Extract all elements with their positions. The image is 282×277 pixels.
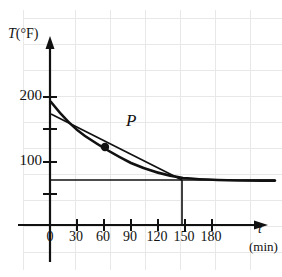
x-tick-label-30: 30 [61, 230, 91, 244]
x-tick-label-60: 60 [88, 230, 118, 244]
x-axis-label: t [258, 222, 262, 235]
y-axis-arrowhead [46, 36, 55, 49]
cooling-curve-figure: T(°F) t (min) P 200 100 0 30 60 90 120 1… [0, 0, 282, 277]
y-axis-variable: T [8, 26, 16, 41]
x-axis-units-label: (min) [249, 240, 278, 253]
y-axis-units: (°F) [16, 26, 39, 41]
x-tick-label-90: 90 [115, 230, 145, 244]
x-tick-label-180: 180 [196, 230, 226, 244]
y-tick-label-200: 200 [0, 88, 42, 103]
y-axis-label: T(°F) [8, 27, 39, 41]
point-p-marker [101, 143, 109, 151]
point-p-label: P [126, 112, 136, 129]
x-tick-label-120: 120 [142, 230, 172, 244]
y-tick-label-100: 100 [0, 153, 42, 168]
cooling-curve [51, 102, 275, 181]
x-tick-label-150: 150 [169, 230, 199, 244]
